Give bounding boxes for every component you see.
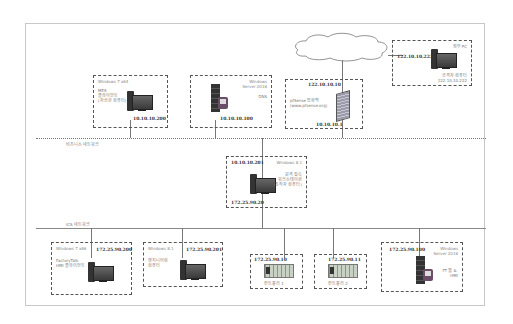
ip-address: 122.10.10.222	[397, 54, 433, 59]
wan-ip-address: 122.10.10.10	[308, 82, 341, 87]
plc-icon	[264, 264, 294, 278]
node-engineering[interactable]: Windows 8.1 172.25.90.201 엔지니어링 컴퓨터	[143, 242, 223, 287]
node-factorytalk[interactable]: Windows 7 x86 172.25.90.200 FactoryTalk …	[51, 242, 132, 295]
internet-cloud-icon	[292, 30, 392, 62]
role-label: 컨트롤러 1	[264, 281, 284, 286]
os-label: Windows 7 x64	[98, 79, 128, 84]
role-label: pfSense 방화벽 (www.pfsense.org)	[290, 98, 327, 108]
ip-address: 10.10.10.100	[220, 116, 253, 121]
role-label: MES 클라이언트 (자산관 컴퓨터)	[98, 88, 126, 103]
ip-address: 172.25.90.100	[389, 247, 425, 252]
ip-address: 10.10.10.200	[133, 116, 166, 121]
node-pfsense[interactable]: 122.10.10.10 pfSense 방화벽 (www.pfsense.or…	[285, 79, 363, 129]
node-jump-host[interactable]: 10.10.10.201 Windows 8.1 원격 접속 워크스테이션 (조…	[226, 156, 307, 208]
ip-address: 172.25.90.11	[328, 257, 361, 262]
corporate-network-line	[36, 138, 486, 139]
lan-ip-address: 10.10.10.1	[316, 122, 343, 127]
ip-address: 172.25.90.200	[96, 247, 132, 252]
role-label: 공격자 컴퓨터 122.10.10.222	[438, 73, 467, 83]
role-label: 원격 접속 워크스테이션 (조작자 컴퓨터)	[274, 172, 302, 187]
ip-address: 172.25.90.201	[186, 247, 222, 252]
corporate-ip-address: 10.10.10.201	[231, 160, 264, 165]
role-label: 엔지니어링 컴퓨터	[148, 258, 168, 268]
node-plc2[interactable]: 172.25.90.11 컨트롤러 2	[314, 254, 367, 289]
firewall-icon	[336, 90, 350, 122]
os-label: Windows 8.1	[148, 246, 174, 251]
ics-network-label: ICS 네트워크	[66, 221, 90, 227]
plc-icon	[328, 264, 358, 278]
node-plc1[interactable]: 172.25.90.10 컨트롤러 1	[250, 254, 303, 289]
node-ft-server[interactable]: 172.25.90.100 Windows Server 2016 FT 웹 &…	[381, 242, 463, 292]
os-label: Windows 7 x86	[56, 246, 86, 251]
corporate-network-label: 비즈니스 네트워크	[66, 141, 99, 147]
role-top-label: 외부 PC	[453, 44, 467, 49]
node-mes[interactable]: Windows 7 x64 MES 클라이언트 (자산관 컴퓨터) 10.10.…	[93, 75, 168, 128]
node-dns[interactable]: Windows Server 2016 DNS 10.10.10.100	[190, 75, 272, 128]
role-label: FT 웹 & HMI	[442, 268, 458, 278]
ip-address: 172.25.90.10	[254, 257, 287, 262]
node-attacker[interactable]: 외부 PC 122.10.10.222 공격자 컴퓨터 122.10.10.22…	[392, 40, 472, 86]
role-label: 컨트롤러 2	[328, 281, 348, 286]
os-label: Windows Server 2016	[433, 246, 458, 256]
ics-ip-address: 172.25.90.20	[231, 200, 264, 205]
role-label: FactoryTalk HMI 클라이언트	[56, 258, 85, 268]
role-label: DNS	[258, 94, 267, 99]
os-label: Windows Server 2016	[242, 79, 267, 89]
os-label: Windows 8.1	[277, 160, 303, 165]
